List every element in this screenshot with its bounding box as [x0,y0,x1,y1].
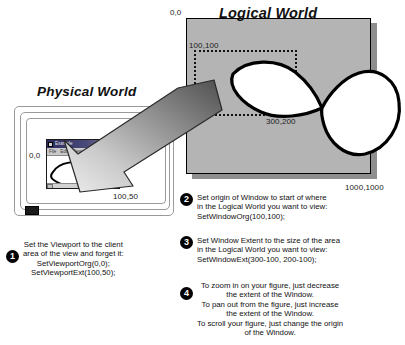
step-3: 3 Set Window Extent to the size of the a… [180,236,398,264]
figure-petal-right [225,50,405,170]
logical-world-extent-label: 1000,1000 [345,183,384,192]
step-4-text: To zoom in on your figure, just decrease… [197,281,343,337]
step-4: 4 To zoom in on your figure, just decrea… [180,281,398,337]
step-1: 1 Set the Viewport to the client area of… [6,240,176,278]
window-origin-label: 100,100 [189,41,219,50]
logical-world-origin-label: 0,0 [170,8,181,17]
step-4-bullet: 4 [180,287,193,300]
step-2: 2 Set origin of Window to start of where… [180,193,398,221]
mouse-icon [25,206,39,215]
step-3-text: Set Window Extent to the size of the are… [197,236,340,264]
step-2-text: Set origin of Window to start of where i… [197,193,327,221]
step-3-bullet: 3 [180,236,193,249]
mapping-arrow-icon [28,74,223,199]
step-1-text: Set the Viewport to the client area of t… [23,240,124,278]
step-2-bullet: 2 [180,193,193,206]
logical-world-title: Logical World [219,5,317,21]
step-1-bullet: 1 [6,250,19,263]
